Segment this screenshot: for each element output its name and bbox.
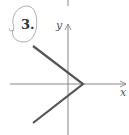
graph-figure: 3. y x bbox=[0, 0, 129, 135]
problem-number: 3. bbox=[21, 17, 35, 32]
x-axis-label: x bbox=[120, 86, 126, 99]
y-axis-label: y bbox=[56, 19, 62, 32]
graph-canvas bbox=[0, 0, 129, 135]
